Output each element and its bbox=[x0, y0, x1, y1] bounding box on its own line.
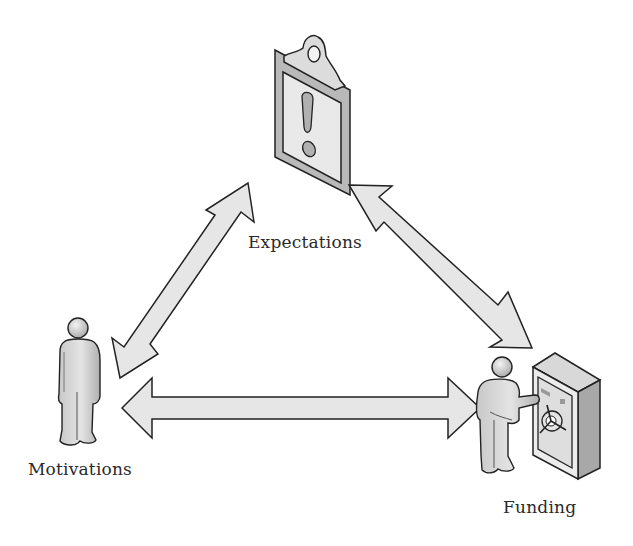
node-label-funding: Funding bbox=[503, 497, 576, 517]
node-label-expectations: Expectations bbox=[248, 232, 362, 252]
clipboard-exclamation-icon bbox=[275, 36, 350, 195]
safe-icon bbox=[533, 353, 600, 479]
diagram-canvas: Expectations Motivations Funding bbox=[0, 0, 633, 546]
node-label-motivations: Motivations bbox=[28, 459, 132, 479]
double-arrow-motivations-expectations bbox=[112, 183, 254, 378]
person-opening-safe-icon bbox=[476, 357, 539, 473]
double-arrow-expectations-funding bbox=[349, 185, 532, 348]
double-arrow-motivations-funding bbox=[122, 378, 480, 438]
person-icon bbox=[58, 318, 100, 445]
